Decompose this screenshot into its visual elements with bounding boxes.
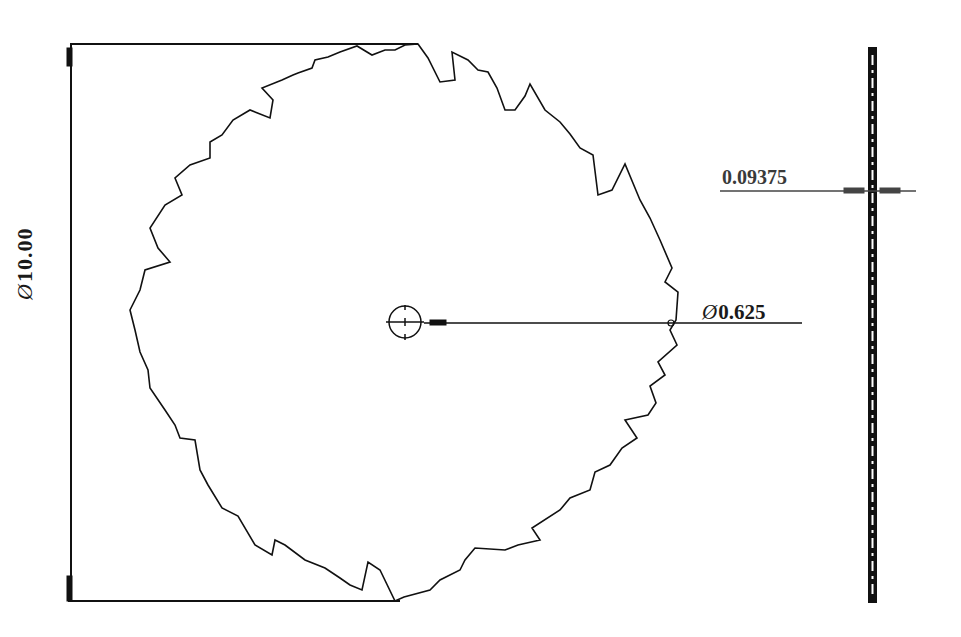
thickness-label: 0.09375	[722, 166, 787, 189]
diameter-symbol-icon: Ø	[702, 300, 717, 324]
side-view	[868, 47, 877, 603]
arrow-icon	[430, 320, 446, 325]
outer-diameter-dimension	[67, 44, 418, 601]
arrow-top-icon	[67, 48, 72, 66]
outer-diameter-value: 10.00	[12, 228, 37, 283]
diameter-symbol-icon: Ø	[12, 283, 37, 300]
bore-diameter-label: Ø0.625	[702, 300, 765, 325]
bore-diameter-value: 0.625	[718, 300, 765, 324]
thickness-value: 0.09375	[722, 166, 787, 188]
bore-hole	[386, 305, 424, 340]
drawing-canvas	[0, 0, 961, 637]
outer-diameter-label: Ø10.00	[12, 228, 38, 300]
arrow-bottom-icon	[67, 576, 72, 601]
